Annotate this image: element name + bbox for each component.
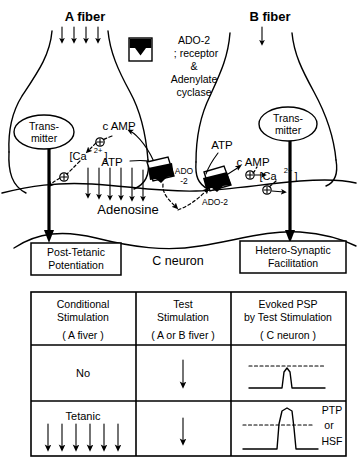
a-fiber-arrows — [62, 27, 98, 41]
right-receptor-label: ADO-2 — [202, 197, 228, 207]
row-no-conditional-label: No — [76, 367, 90, 379]
th-1-line1: Conditional — [57, 298, 110, 310]
legend-line-3: & — [190, 60, 197, 72]
row-tetanic-psp-trace — [243, 408, 318, 449]
th-2-line2: Stimulation — [157, 311, 209, 323]
left-plus-symbol-upper — [96, 138, 104, 146]
left-transmitter-line1: Trans- — [29, 120, 59, 132]
right-plus-to-release-arrow — [272, 191, 284, 192]
neuron-synapse-diagram: A fiber B fiber ADO-2 ; receptor & Adeny… — [0, 0, 358, 466]
psp-label-hsf: HSF — [322, 435, 343, 447]
adenosine-label: Adenosine — [97, 202, 158, 217]
presynaptic-membrane-line — [2, 180, 356, 193]
a-terminal-bottom-right — [134, 160, 148, 189]
psp-label-or: or — [324, 419, 334, 431]
legend-line-5: cyclase — [176, 86, 211, 98]
right-transmitter-line1: Trans- — [273, 112, 303, 124]
left-ado2-receptor-icon — [147, 157, 174, 183]
right-calcium-sup: 2+ — [284, 166, 293, 175]
legend-line-1: ADO-2 — [178, 34, 210, 46]
hsf-box-line2: Facilitation — [268, 257, 318, 269]
legend-line-4: Adenylate — [171, 73, 218, 85]
left-receptor-label-line2: -2 — [180, 176, 188, 186]
c-neuron-label: C neuron — [152, 254, 203, 268]
figure-canvas: A fiber B fiber ADO-2 ; receptor & Adeny… — [0, 0, 358, 466]
th-3-line2: by Test Stimulation — [244, 311, 332, 323]
b-fiber-right-wall — [292, 33, 336, 160]
right-transmitter-line2: mitter — [275, 124, 302, 136]
th-3-sub: ( C neuron ) — [260, 329, 316, 341]
th-1-line2: Stimulation — [57, 311, 109, 323]
th-2-sub: ( A or B fiver ) — [151, 329, 215, 341]
adenosine-to-left-receptor-dash — [163, 184, 176, 207]
legend-line-2: ; receptor — [174, 47, 219, 59]
adenosine-efflux-arrows — [88, 168, 143, 199]
left-calcium-to-plus-dash — [67, 161, 80, 174]
hsf-box-line1: Hetero-Synaptic — [255, 244, 330, 256]
b-terminal-bottom-right — [326, 160, 337, 186]
ptp-box-line1: Post-Tetanic — [47, 246, 105, 258]
ptp-box-line2: Potentiation — [48, 259, 104, 271]
psp-label-ptp: PTP — [322, 404, 342, 416]
a-fiber-label: A fiber — [65, 9, 106, 24]
th-1-sub: ( A fiver ) — [62, 329, 103, 341]
right-plus-symbol-lower — [263, 186, 271, 194]
right-plus-symbol-upper — [246, 171, 254, 179]
row-tetanic-conditional-arrows — [48, 424, 118, 448]
b-fiber-label: B fiber — [249, 9, 290, 24]
left-receptor-label-line1: ADO — [175, 166, 194, 176]
right-camp-label: c AMP — [236, 156, 270, 168]
th-3-line1: Evoked PSP — [259, 298, 318, 310]
a-terminal-bottom-left — [9, 152, 26, 193]
left-calcium-open: [Ca — [69, 150, 87, 162]
th-2-line1: Test — [173, 298, 192, 310]
left-camp-label: c AMP — [102, 120, 136, 132]
row-no-psp-trace — [249, 366, 325, 388]
ado2-receptor-icon — [129, 38, 152, 61]
row-tetanic-conditional-label: Tetanic — [66, 410, 101, 422]
right-calcium-label: [Ca 2+ ] — [259, 166, 297, 182]
right-calcium-close: ] — [294, 170, 297, 182]
right-atp-label: ATP — [211, 139, 233, 151]
left-camp-to-plus-dash — [103, 136, 112, 140]
right-calcium-open: [Ca — [259, 170, 277, 182]
left-calcium-sup: 2+ — [94, 146, 103, 155]
left-atp-label: ATP — [101, 156, 123, 168]
left-release-arrowhead — [44, 230, 54, 243]
left-transmitter-line2: mitter — [31, 132, 58, 144]
